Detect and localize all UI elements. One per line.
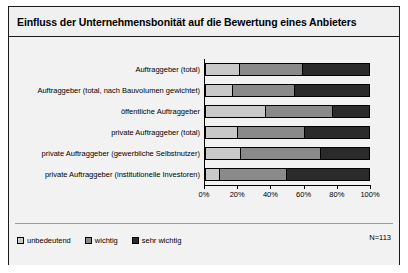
bar-segment	[237, 127, 304, 138]
bar-segment	[219, 169, 286, 180]
x-axis-tick-label: 0%	[199, 190, 210, 199]
bar-segment	[320, 148, 369, 159]
legend-swatch-icon	[17, 237, 24, 244]
category-label: Auftraggeber (total)	[9, 59, 204, 80]
x-axis-tick-label: 40%	[263, 190, 278, 199]
chart-title-bar: Einfluss der Unternehmensbonität auf die…	[9, 7, 399, 37]
legend-item-sehr-wichtig: sehr wichtig	[132, 236, 182, 245]
x-axis-tick	[304, 185, 305, 189]
category-label: private Auftraggeber (total)	[9, 122, 204, 143]
bar-segment	[286, 169, 369, 180]
bar-segment	[294, 85, 369, 96]
bar-row	[205, 63, 370, 76]
legend-divider	[15, 223, 393, 224]
legend-swatch-icon	[85, 237, 92, 244]
page-title: Einfluss der Unternehmensbonität auf die…	[9, 16, 357, 28]
bar-row	[205, 168, 370, 181]
bar-segment	[206, 106, 265, 117]
category-label: öffentliche Auftraggeber	[9, 101, 204, 122]
legend-label: wichtig	[95, 236, 118, 245]
bar-segment	[239, 64, 303, 75]
category-label: private Auftraggeber (institutionelle In…	[9, 164, 204, 185]
x-axis-tick-label: 80%	[329, 190, 344, 199]
legend-item-unbedeutend: unbedeutend	[17, 236, 71, 245]
category-label: Auftraggeber (total, nach Bauvolumen gew…	[9, 80, 204, 101]
legend-item-wichtig: wichtig	[85, 236, 118, 245]
bar-segment	[240, 148, 320, 159]
x-axis-tick	[337, 185, 338, 189]
x-axis-tick-labels: 0%20%40%60%80%100%	[204, 190, 370, 202]
bar-row	[205, 126, 370, 139]
legend-label: unbedeutend	[27, 236, 71, 245]
category-label: private Auftraggeber (gewerbliche Selbst…	[9, 143, 204, 164]
legend-label: sehr wichtig	[142, 236, 182, 245]
bar-segment	[304, 127, 369, 138]
bar-series-container	[205, 59, 370, 185]
sample-size-note: N=113	[369, 233, 391, 242]
x-axis-tick	[237, 185, 238, 189]
x-axis-tick	[204, 185, 205, 189]
bars-region	[204, 59, 370, 185]
x-axis-tick-label: 60%	[296, 190, 311, 199]
x-axis-tick	[370, 185, 371, 189]
bar-segment	[206, 64, 239, 75]
chart-panel: Einfluss der Unternehmensbonität auf die…	[8, 6, 400, 265]
bar-segment	[206, 148, 240, 159]
bar-segment	[302, 64, 369, 75]
category-axis-labels: Auftraggeber (total) Auftraggeber (total…	[9, 59, 204, 185]
bar-row	[205, 105, 370, 118]
bar-segment	[206, 169, 219, 180]
legend-swatch-icon	[132, 237, 139, 244]
chart-figure: Einfluss der Unternehmensbonität auf die…	[0, 0, 408, 273]
chart-legend: unbedeutend wichtig sehr wichtig	[17, 233, 181, 247]
plot-area: Auftraggeber (total) Auftraggeber (total…	[9, 37, 399, 265]
bar-row	[205, 84, 370, 97]
bar-segment	[265, 106, 332, 117]
bar-segment	[206, 85, 232, 96]
x-axis-tick	[270, 185, 271, 189]
x-axis-tick-label: 100%	[360, 190, 379, 199]
bar-segment	[332, 106, 369, 117]
bar-segment	[206, 127, 237, 138]
x-axis-tick-label: 20%	[230, 190, 245, 199]
bar-row	[205, 147, 370, 160]
x-axis-ticks	[204, 185, 370, 189]
bar-segment	[232, 85, 294, 96]
